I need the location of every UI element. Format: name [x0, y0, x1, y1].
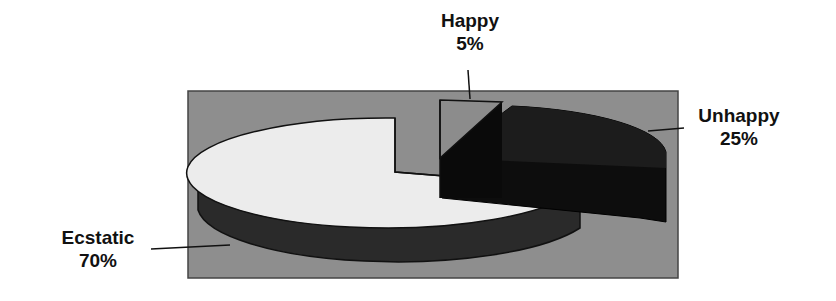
- label-unhappy-pct: 25%: [684, 127, 794, 150]
- label-unhappy-name: Unhappy: [684, 104, 794, 127]
- label-unhappy: Unhappy 25%: [684, 104, 794, 150]
- label-ecstatic-pct: 70%: [48, 249, 148, 272]
- label-ecstatic: Ecstatic 70%: [48, 226, 148, 272]
- label-happy: Happy 5%: [425, 9, 515, 55]
- label-happy-pct: 5%: [425, 32, 515, 55]
- slice-happy: [440, 100, 502, 198]
- label-happy-name: Happy: [425, 9, 515, 32]
- label-ecstatic-name: Ecstatic: [48, 226, 148, 249]
